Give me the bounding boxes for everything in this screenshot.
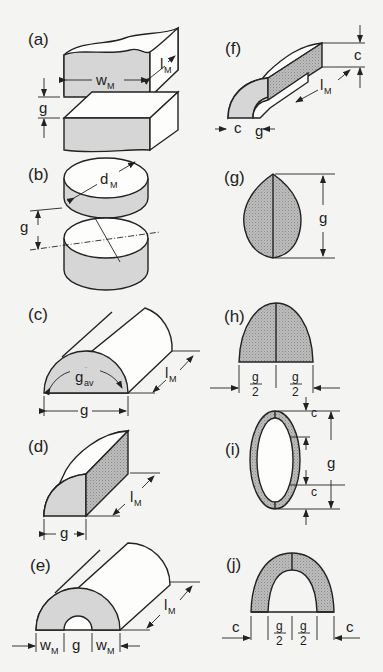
label-i: (i) bbox=[225, 440, 240, 459]
svg-text:c: c bbox=[232, 618, 240, 635]
svg-text:g: g bbox=[255, 122, 263, 139]
svg-text:g: g bbox=[20, 218, 28, 235]
svg-text:w: w bbox=[95, 636, 107, 653]
svg-text:g: g bbox=[75, 368, 83, 385]
svg-text:M: M bbox=[164, 65, 172, 75]
panel-e: (e) l M w M g w M bbox=[12, 543, 200, 656]
svg-text:g: g bbox=[80, 401, 88, 418]
svg-text:w: w bbox=[95, 71, 107, 88]
svg-text:M: M bbox=[51, 646, 59, 656]
panel-c: (c) g av l M g bbox=[28, 305, 200, 418]
label-g: (g) bbox=[224, 168, 245, 187]
label-d: (d) bbox=[28, 437, 49, 456]
svg-text:2: 2 bbox=[292, 385, 299, 399]
svg-text:l: l bbox=[165, 364, 168, 381]
svg-text:l: l bbox=[164, 596, 167, 613]
label-h: (h) bbox=[224, 307, 245, 326]
svg-text:g: g bbox=[252, 370, 259, 384]
svg-text:l: l bbox=[160, 55, 163, 72]
svg-text:g: g bbox=[292, 370, 299, 384]
ring-inner bbox=[257, 418, 293, 502]
panel-b: (b) d M g bbox=[20, 158, 160, 290]
svg-text:M: M bbox=[107, 646, 115, 656]
svg-text:c: c bbox=[311, 485, 317, 499]
svg-text:M: M bbox=[169, 374, 177, 384]
label-a: (a) bbox=[28, 30, 49, 49]
svg-text:M: M bbox=[324, 86, 332, 96]
label-b: (b) bbox=[28, 165, 49, 184]
svg-text:M: M bbox=[110, 180, 118, 190]
lower-block-front bbox=[64, 118, 150, 152]
magnet-geometry-figure: (a) w M l M g (b) d M bbox=[0, 0, 383, 672]
svg-text:M: M bbox=[134, 498, 142, 508]
panel-j: (j) c c g 2 g 2 bbox=[222, 553, 360, 648]
svg-text:c: c bbox=[354, 46, 362, 63]
svg-text:g: g bbox=[276, 619, 283, 633]
label-f: (f) bbox=[225, 39, 241, 58]
svg-text:M: M bbox=[107, 81, 115, 91]
svg-text:av: av bbox=[84, 378, 94, 388]
svg-text:g: g bbox=[60, 524, 68, 541]
svg-text:d: d bbox=[100, 170, 108, 187]
label-c: (c) bbox=[28, 305, 48, 324]
panel-d: (d) l M g bbox=[28, 431, 160, 541]
svg-text:l: l bbox=[130, 488, 133, 505]
svg-text:g: g bbox=[319, 209, 327, 226]
label-e: (e) bbox=[30, 556, 51, 575]
panel-i: (i) c g c bbox=[225, 397, 345, 525]
svg-text:g: g bbox=[327, 454, 335, 471]
svg-text:g: g bbox=[72, 636, 80, 653]
svg-text:g: g bbox=[300, 619, 307, 633]
label-j: (j) bbox=[226, 555, 241, 574]
svg-text:l: l bbox=[320, 76, 323, 93]
svg-text:M: M bbox=[168, 606, 176, 616]
panel-h: (h) g 2 g 2 bbox=[210, 303, 340, 399]
panel-g: (g) g bbox=[224, 168, 335, 258]
panel-f: (f) c l M c g bbox=[215, 25, 365, 139]
svg-text:c: c bbox=[234, 119, 242, 136]
svg-text:w: w bbox=[39, 636, 51, 653]
svg-text:g: g bbox=[39, 99, 47, 116]
svg-text:c: c bbox=[346, 618, 354, 635]
svg-text:2: 2 bbox=[300, 634, 307, 648]
svg-text:2: 2 bbox=[276, 634, 283, 648]
quarter-face bbox=[44, 474, 86, 516]
svg-text:2: 2 bbox=[252, 385, 259, 399]
svg-text:c: c bbox=[311, 406, 317, 420]
panel-a: (a) w M l M g bbox=[28, 28, 178, 152]
